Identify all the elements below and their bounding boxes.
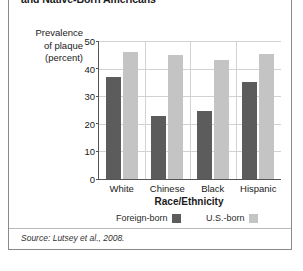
legend-label: Foreign-born [116, 213, 168, 223]
bar-group-chinese [145, 41, 191, 179]
bar-black-foreign-born [197, 111, 212, 179]
bar-hispanic-us-born [259, 54, 274, 179]
bar-white-foreign-born [106, 77, 121, 179]
y-axis-title: Prevalenceof plaque(percent) [15, 27, 83, 65]
figure-panel: and Native-Born Americans Prevalenceof p… [8, 0, 292, 250]
y-tick-label-30: 30 [84, 91, 95, 102]
bar-group-hispanic [236, 41, 282, 179]
legend-swatch [172, 214, 181, 223]
x-tick-label-hispanic: Hispanic [236, 183, 282, 194]
bar-hispanic-foreign-born [242, 82, 257, 179]
y-axis-title-line-1: of plaque [15, 40, 83, 53]
chart-area: Prevalenceof plaque(percent) 01020304050… [9, 0, 293, 251]
y-tick-label-0: 0 [90, 174, 95, 185]
y-tick-label-20: 20 [84, 118, 95, 129]
y-tick-label-10: 10 [84, 146, 95, 157]
legend-swatch [249, 214, 258, 223]
y-axis-title-line-0: Prevalence [15, 27, 83, 40]
y-tick-label-50: 50 [84, 36, 95, 47]
bar-white-us-born [123, 52, 138, 179]
source-note: Source: Lutsey et al., 2008. [21, 233, 124, 243]
legend-item-foreign-born[interactable]: Foreign-born [116, 213, 181, 223]
bar-chinese-us-born [168, 55, 183, 179]
source-divider [9, 228, 291, 229]
bar-group-black [190, 41, 236, 179]
x-tick-label-black: Black [190, 183, 236, 194]
x-axis-title: Race/Ethnicity [98, 196, 280, 207]
bar-black-us-born [214, 60, 229, 179]
chart-legend: Foreign-bornU.S.-born [98, 213, 288, 227]
y-tick-label-40: 40 [84, 63, 95, 74]
bar-chinese-foreign-born [151, 116, 166, 179]
bar-group-white [99, 41, 145, 179]
plot-region: 01020304050WhiteChineseBlackHispanic [98, 41, 281, 180]
x-tick-label-white: White [99, 183, 145, 194]
legend-label: U.S.-born [206, 213, 245, 223]
x-tick-label-chinese: Chinese [145, 183, 191, 194]
y-axis-title-line-2: (percent) [15, 52, 83, 65]
legend-item-us-born[interactable]: U.S.-born [206, 213, 258, 223]
